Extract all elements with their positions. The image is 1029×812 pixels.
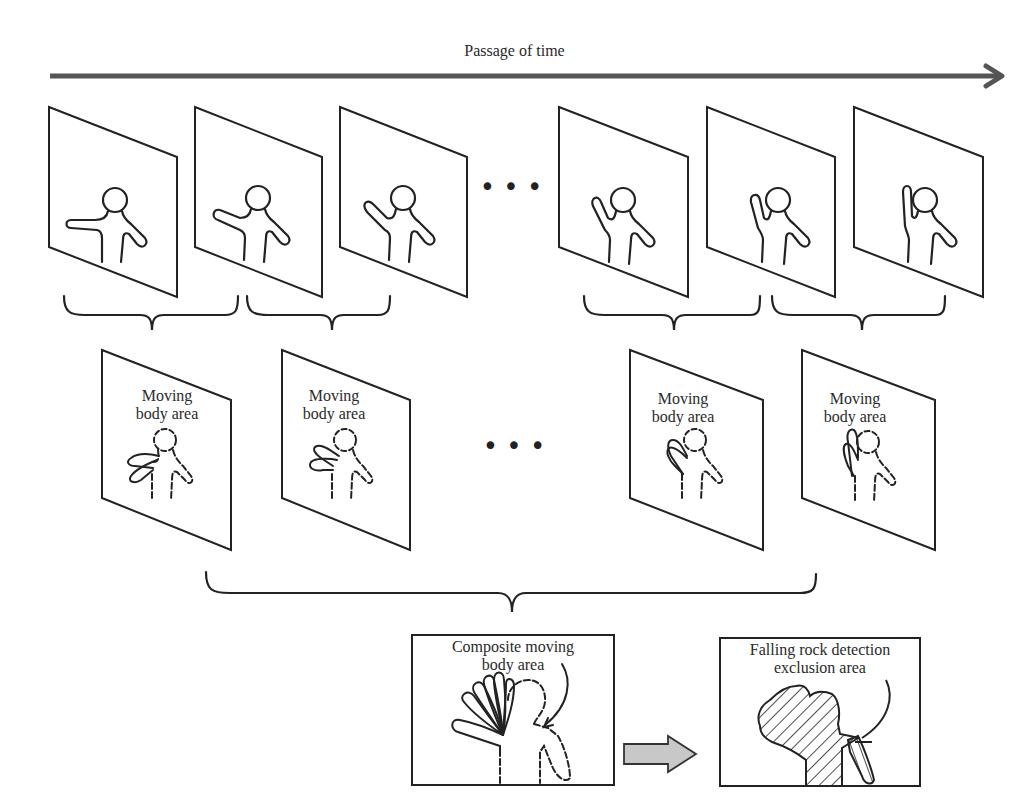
- ellipsis-row-1: • • •: [480, 172, 543, 202]
- label-line-2: body area: [279, 405, 389, 423]
- label-line-2: body area: [112, 405, 222, 423]
- ellipsis-row-2: • • •: [483, 431, 546, 461]
- brace-composite: [206, 572, 816, 612]
- label-line-1: Falling rock detection: [720, 641, 920, 659]
- brace-2: [247, 296, 390, 330]
- input-frame-5: [707, 107, 835, 297]
- label-line-2: body area: [628, 408, 738, 426]
- moving-frame-2-label: Moving body area: [279, 387, 389, 424]
- input-frame-1: [49, 107, 177, 297]
- moving-frame-1: [102, 350, 231, 550]
- brace-3: [584, 296, 760, 330]
- input-frame-2: [195, 107, 322, 297]
- label-line-2: exclusion area: [720, 659, 920, 677]
- brace-1: [64, 296, 238, 330]
- input-frame-4: [559, 107, 688, 297]
- exclusion-box-label: Falling rock detection exclusion area: [720, 641, 920, 678]
- label-line-1: Moving: [279, 387, 389, 405]
- moving-frame-3: [630, 350, 763, 550]
- brace-4: [772, 296, 945, 330]
- moving-frame-4: [802, 350, 935, 550]
- label-line-1: Moving: [112, 387, 222, 405]
- transition-arrow: [624, 736, 696, 772]
- moving-frame-4-label: Moving body area: [800, 390, 910, 427]
- label-line-1: Moving: [628, 390, 738, 408]
- timeline-arrow: [50, 66, 1002, 86]
- moving-frame-1-label: Moving body area: [112, 387, 222, 424]
- label-line-2: body area: [800, 408, 910, 426]
- input-frame-6: [854, 107, 983, 297]
- input-frame-3: [340, 107, 467, 297]
- label-line-2: body area: [412, 656, 614, 674]
- moving-frame-2: [282, 350, 410, 550]
- label-line-1: Moving: [800, 390, 910, 408]
- moving-frame-3-label: Moving body area: [628, 390, 738, 427]
- composite-box-label: Composite moving body area: [412, 638, 614, 675]
- label-line-1: Composite moving: [412, 638, 614, 656]
- braces-row-1: [64, 296, 945, 330]
